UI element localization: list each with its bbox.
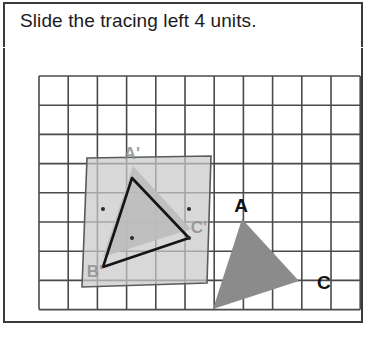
instruction-text: Slide the tracing left 4 units. <box>20 10 350 32</box>
original-triangle-abc <box>213 219 299 309</box>
grid-stage: A'B'C' ABC <box>3 49 363 321</box>
grid-vertex-dot <box>101 207 105 211</box>
vertex-label-a-prime: A' <box>124 144 140 163</box>
vertex-label-c-prime: C' <box>191 218 207 237</box>
vertex-label-b-prime: B' <box>87 262 103 281</box>
vertex-label-c: C <box>317 272 331 293</box>
figure-page: Slide the tracing left 4 units. A'B'C' A… <box>0 0 368 337</box>
grid-vertex-dot <box>187 207 191 211</box>
title-divider <box>3 47 363 48</box>
grid-vertex-dot <box>130 236 134 240</box>
vertex-label-a: A <box>234 195 248 216</box>
translation-figure: A'B'C' ABC <box>3 49 363 321</box>
